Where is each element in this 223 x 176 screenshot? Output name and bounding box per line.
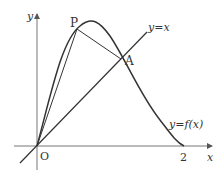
x-axis-label: x [207, 151, 214, 164]
curve-label: y=f(x) [168, 118, 203, 131]
segment-OP [37, 29, 77, 146]
line-label: y=x [147, 21, 170, 34]
point-A-label: A [124, 54, 134, 68]
y-axis-label: y [26, 10, 34, 23]
x-tick-2: 2 [180, 151, 187, 164]
point-P-label: P [70, 16, 78, 30]
origin-label: O [40, 150, 49, 163]
line-y-equals-x [20, 32, 147, 163]
diagram-canvas: y x O 2 P A y=x y=f(x) [0, 0, 223, 176]
curve-f [37, 21, 184, 146]
